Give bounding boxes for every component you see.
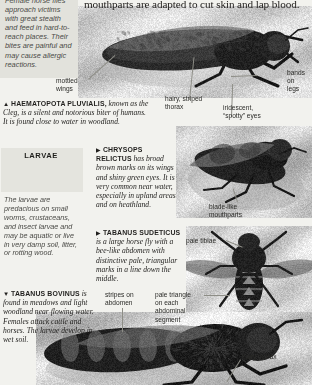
caption-marker-haematopota: ▲ — [3, 100, 9, 107]
caption-text-sudeticus: is a large horse fly with a bee-like abd… — [96, 237, 177, 283]
callout-stripes-on-abdomen: stripes on abdomen — [105, 291, 147, 307]
leader-line-stripes-on-abdomen — [122, 308, 123, 332]
callout-iridescent-spotty-eyes: iridescent, “spotty” eyes — [223, 104, 281, 120]
callout-hairy-thorax: hairy thorax — [242, 353, 290, 361]
larvae-panel-caption: The larvae are predacious on small worms… — [4, 196, 78, 258]
callout-blade-like-mouthparts: blade-like mouthparts — [209, 203, 261, 219]
caption-tabanus-bovinus: ▼ TABANUS BOVINUS is found in meadows an… — [3, 289, 99, 344]
caption-text-bovinus: is found in meadows and light woodland n… — [3, 289, 94, 344]
callout-mottled-wings: mottled wings — [56, 77, 96, 93]
callout-hairy-striped-thorax: hairy, striped thorax — [165, 95, 215, 111]
callout-bands-on-legs: bands on legs — [287, 69, 312, 94]
caption-species-sudeticus: TABANUS SUDETICUS — [103, 229, 180, 236]
caption-marker-sudeticus: ▶ — [96, 229, 101, 236]
larvae-panel-title: LARVAE — [0, 151, 82, 160]
caption-chrysops-relictus: ▶ CHRYSOPS RELICTUS has broad brown mark… — [96, 145, 180, 209]
callout-pale-triangle: pale triangle on each abdominal segment — [155, 291, 203, 324]
callout-pale-tibiae: pale tibiae — [186, 237, 224, 245]
caption-text-chrysops: has broad brown marks on its wings and s… — [96, 154, 176, 209]
caption-species-bovinus: TABANUS BOVINUS — [11, 290, 80, 297]
caption-haematopota-pluvialis: ▲ HAEMATOPOTA PLUVIALIS, known as the Cl… — [3, 99, 151, 127]
caption-tabanus-sudeticus: ▶ TABANUS SUDETICUS is a large horse fly… — [96, 228, 184, 283]
page-canvas: mouthparts are adapted to cut skin and l… — [0, 0, 312, 385]
page-headline: mouthparts are adapted to cut skin and l… — [84, 0, 312, 11]
photo-haematopota-pluvialis — [78, 6, 312, 98]
intro-paragraph: Female horse flies approach victims with… — [5, 0, 75, 69]
caption-marker-bovinus: ▼ — [3, 290, 9, 297]
caption-species-haematopota: HAEMATOPOTA PLUVIALIS, — [11, 100, 107, 107]
leader-line-pale-triangle — [204, 295, 230, 296]
caption-marker-chrysops: ▶ — [96, 146, 101, 153]
